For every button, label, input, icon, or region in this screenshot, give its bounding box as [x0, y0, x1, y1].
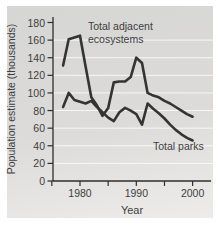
- y-tick-label-40: 40: [13, 140, 45, 152]
- population-chart: Population estimate (thousands) Year 020…: [0, 0, 218, 228]
- y-tick-label-140: 140: [13, 52, 45, 64]
- total-adjacent-ecosystems-label: Total adjacentecosystems: [88, 20, 153, 45]
- x-tick-label-2000: 2000: [175, 187, 211, 200]
- x-tick-label-1990: 1990: [118, 187, 154, 200]
- series-line-total-parks: [63, 93, 193, 141]
- y-tick-label-0: 0: [13, 175, 45, 187]
- y-tick-label-180: 180: [13, 17, 45, 29]
- y-tick-label-20: 20: [13, 157, 45, 169]
- total-parks-label: Total parks: [153, 140, 204, 153]
- series-line-total-adjacent-ecosystems: [63, 36, 193, 117]
- total-parks-label-line-0: Total parks: [153, 140, 204, 153]
- x-tick-label-1980: 1980: [62, 187, 98, 200]
- x-axis-title: Year: [102, 204, 162, 217]
- y-tick-label-120: 120: [13, 69, 45, 81]
- y-tick-label-160: 160: [13, 34, 45, 46]
- total-adjacent-ecosystems-label-line-0: Total adjacent: [88, 20, 153, 33]
- y-tick-label-100: 100: [13, 87, 45, 99]
- y-tick-label-60: 60: [13, 122, 45, 134]
- total-adjacent-ecosystems-label-line-1: ecosystems: [88, 33, 153, 46]
- y-tick-label-80: 80: [13, 105, 45, 117]
